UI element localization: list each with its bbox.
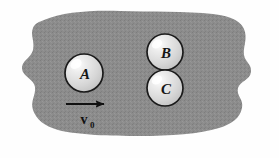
velocity-label: v <box>81 112 88 127</box>
ball-c-label: C <box>161 81 172 97</box>
ball-a: A <box>65 54 103 92</box>
velocity-label-subscript: 0 <box>90 120 95 130</box>
surface-region <box>22 11 251 136</box>
ball-a-label: A <box>79 66 90 82</box>
physics-diagram-svg: A B C v 0 <box>0 0 279 158</box>
ball-c: C <box>147 70 183 106</box>
ball-b-label: B <box>160 45 171 61</box>
surface-blob-shape <box>22 11 251 136</box>
diagram-canvas: A B C v 0 <box>0 0 279 158</box>
ball-b: B <box>147 34 183 70</box>
